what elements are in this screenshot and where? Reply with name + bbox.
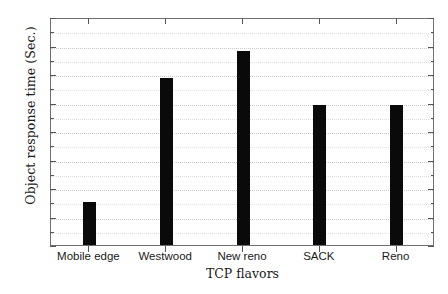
x-tick-label-reno: Reno (351, 250, 441, 262)
y-tick-mark-minor (50, 232, 54, 233)
y-tick-mark-minor (431, 32, 435, 33)
y-axis-title: Object response time (Sec.) (23, 1, 38, 231)
y-tick-mark (428, 75, 434, 76)
x-tick-mark (88, 18, 89, 24)
y-tick-mark (428, 218, 434, 219)
y-tick-mark-minor (50, 203, 54, 204)
y-tick-mark (50, 47, 56, 48)
y-tick-mark (50, 132, 56, 133)
y-tick-mark (428, 161, 434, 162)
y-tick-mark-minor (50, 32, 54, 33)
y-tick-mark (428, 132, 434, 133)
y-tick-mark (50, 75, 56, 76)
y-tick-mark-minor (431, 89, 435, 90)
y-tick-mark-minor (50, 146, 54, 147)
y-tick-mark (428, 189, 434, 190)
y-tick-mark-minor (431, 146, 435, 147)
y-tick-mark (50, 161, 56, 162)
gridline-minor (51, 33, 433, 34)
x-axis-title: TCP flavors (50, 266, 435, 281)
y-tick-mark (50, 18, 56, 19)
y-tick-mark-minor (431, 61, 435, 62)
y-tick-mark (50, 189, 56, 190)
y-tick-mark-minor (431, 175, 435, 176)
y-tick-mark-minor (431, 203, 435, 204)
y-tick-mark-minor (50, 175, 54, 176)
y-tick-mark-minor (50, 89, 54, 90)
bar-mobile-edge (83, 202, 96, 245)
y-tick-mark (428, 104, 434, 105)
y-tick-mark-minor (50, 118, 54, 119)
x-tick-mark (242, 18, 243, 24)
x-tick-mark (319, 18, 320, 24)
gridline-major (51, 48, 433, 49)
y-tick-mark (428, 18, 434, 19)
x-tick-mark (396, 18, 397, 24)
y-tick-mark-minor (431, 232, 435, 233)
bar-sack (313, 105, 326, 245)
plot-area (50, 18, 434, 246)
y-tick-mark-minor (50, 61, 54, 62)
bar-reno (390, 105, 403, 245)
y-tick-mark (50, 218, 56, 219)
y-tick-mark (50, 104, 56, 105)
y-tick-mark (50, 246, 56, 247)
x-tick-mark (165, 18, 166, 24)
y-tick-mark-minor (431, 118, 435, 119)
y-tick-mark (428, 47, 434, 48)
bar-new-reno (237, 51, 250, 245)
bar-chart-figure: Object response time (Sec.) 012345678Mob… (0, 0, 448, 294)
y-tick-mark (428, 246, 434, 247)
bar-westwood (160, 78, 173, 245)
